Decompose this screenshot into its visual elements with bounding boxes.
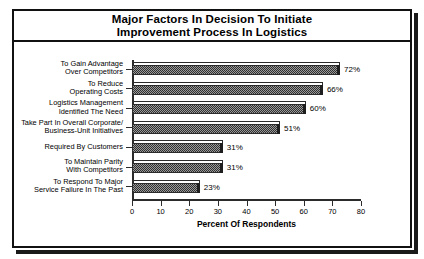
category-label: To Respond To MajorService Failure In Th… — [14, 178, 126, 195]
x-axis-tick — [275, 201, 276, 206]
bar-end-cap — [277, 124, 280, 134]
bar-front-face — [132, 85, 321, 95]
category-label-line: With Competitors — [14, 166, 123, 174]
bar-value-label: 31% — [227, 163, 243, 173]
x-axis-tick-label: 20 — [185, 207, 193, 216]
x-axis-tick-label: 0 — [130, 207, 134, 216]
frame-shadow-right — [414, 13, 418, 252]
category-label: Required By Customers — [14, 143, 126, 151]
x-axis-title: Percent Of Respondents — [132, 219, 361, 229]
category-label: To Maintain ParityWith Competitors — [14, 158, 126, 175]
x-axis-tick-label: 50 — [271, 207, 279, 216]
x-axis-tick — [332, 201, 333, 206]
bar-end-cap — [337, 65, 340, 75]
category-label-line: Business-Unit Initiatives — [14, 127, 123, 135]
chart-title-line-2: Improvement Process In Logistics — [117, 26, 307, 39]
bar-end-cap — [320, 85, 323, 95]
bar-value-label: 66% — [327, 85, 343, 95]
bar — [132, 62, 341, 75]
bar-end-cap — [220, 143, 223, 153]
bar — [132, 160, 224, 173]
x-axis-tick-label: 60 — [300, 207, 308, 216]
plot-area: Percent Of Respondents 01020304050607080… — [14, 42, 410, 248]
bar — [132, 121, 281, 134]
bar — [132, 180, 201, 193]
category-label: Take Part In Overall Corporate/Business-… — [14, 119, 126, 136]
category-label-line: Over Competitors — [14, 68, 123, 76]
bar-value-label: 51% — [284, 124, 300, 134]
x-axis-tick — [218, 201, 219, 206]
bar — [132, 101, 307, 114]
bar-value-label: 31% — [227, 143, 243, 153]
chart-figure: Major Factors In Decision To Initiate Im… — [12, 9, 412, 248]
bar-front-face — [132, 124, 278, 134]
bar-end-cap — [303, 104, 306, 114]
x-axis-tick — [247, 201, 248, 206]
category-label: Logistics ManagementIdentified The Need — [14, 99, 126, 116]
bar-front-face — [132, 143, 221, 153]
x-axis-tick-label: 80 — [357, 207, 365, 216]
chart-title-line-1: Major Factors In Decision To Initiate — [112, 13, 312, 26]
bar-front-face — [132, 183, 198, 193]
x-axis-tick-label: 10 — [156, 207, 164, 216]
bar-front-face — [132, 163, 221, 173]
category-label: To Gain AdvantageOver Competitors — [14, 60, 126, 77]
category-label-line: Service Failure In The Past — [14, 186, 123, 194]
x-axis-tick — [361, 201, 362, 206]
category-label-line: Identified The Need — [14, 108, 123, 116]
x-axis-tick-label: 40 — [242, 207, 250, 216]
bar-end-cap — [220, 163, 223, 173]
bar-front-face — [132, 65, 338, 75]
bar-value-label: 60% — [310, 104, 326, 114]
x-axis-tick-label: 70 — [328, 207, 336, 216]
category-label-line: Required By Customers — [14, 143, 123, 151]
bar — [132, 82, 324, 95]
bar-front-face — [132, 104, 304, 114]
bar — [132, 140, 224, 153]
category-label: To ReduceOperating Costs — [14, 80, 126, 97]
x-axis-tick-label: 30 — [214, 207, 222, 216]
bar-value-label: 23% — [204, 183, 220, 193]
bar-end-cap — [197, 183, 200, 193]
chart-title-box: Major Factors In Decision To Initiate Im… — [14, 11, 410, 42]
frame-shadow-bottom — [16, 250, 418, 254]
x-axis-tick — [304, 201, 305, 206]
category-label-line: Operating Costs — [14, 88, 123, 96]
x-axis-tick — [161, 201, 162, 206]
x-axis-tick — [189, 201, 190, 206]
x-axis-tick — [132, 201, 133, 206]
bar-value-label: 72% — [344, 65, 360, 75]
